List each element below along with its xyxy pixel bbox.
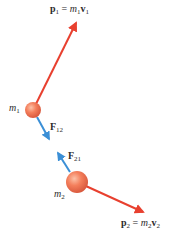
momentum-arrow-p1 bbox=[33, 23, 76, 110]
force-arrow-f12 bbox=[37, 117, 49, 139]
ball-m1 bbox=[25, 102, 41, 118]
momentum-diagram: p1 = m1v1 m1 F12 F21 m2 p2 = m2v2 bbox=[0, 0, 169, 232]
label-p2-equation: p2 = m2v2 bbox=[121, 218, 160, 230]
ball-m2 bbox=[66, 171, 88, 193]
diagram-graphic bbox=[0, 0, 169, 232]
m2-symbol: m bbox=[141, 217, 148, 228]
v1-subscript: 1 bbox=[85, 8, 89, 16]
label-f21: F21 bbox=[68, 151, 81, 163]
label-f12: F12 bbox=[50, 122, 63, 134]
label-m1: m1 bbox=[9, 103, 20, 115]
label-m2: m2 bbox=[54, 189, 65, 201]
f12-subscript: 12 bbox=[56, 126, 63, 134]
m1-symbol: m bbox=[70, 3, 77, 14]
m1-label-subscript: 1 bbox=[16, 107, 20, 115]
label-p1-equation: p1 = m1v1 bbox=[50, 4, 89, 16]
v2-subscript: 2 bbox=[156, 222, 160, 230]
equals-sign: = bbox=[130, 217, 141, 228]
f21-subscript: 21 bbox=[74, 155, 81, 163]
equals-sign: = bbox=[59, 3, 70, 14]
m2-label-subscript: 2 bbox=[61, 193, 65, 201]
